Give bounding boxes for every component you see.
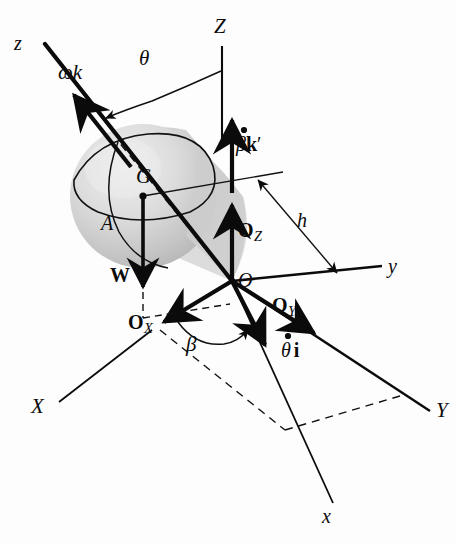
reaction-OX-label: OX [128, 312, 153, 335]
angle-theta-label: θ [139, 48, 149, 69]
height-h-label: h [297, 210, 307, 230]
beta-dot-k-prime-label: βk′ [236, 134, 261, 154]
reaction-OX-subscript: X [144, 320, 153, 336]
figure-canvas: z Z ωk θ βk′ OZ O h y OY θi OX β X Y x G… [0, 0, 456, 544]
reaction-OY-label: OY [272, 295, 296, 318]
origin-dot [229, 278, 235, 284]
k-unit-vector: k [246, 133, 257, 155]
spinning-top-body [70, 124, 247, 281]
axis-z-label: z [14, 33, 22, 53]
prime-mark: ′ [257, 133, 261, 155]
axis-X-label: X [31, 396, 44, 417]
reaction-OX-vector [164, 281, 232, 322]
reaction-OY-subscript: Y [288, 303, 296, 319]
beta-symbol: β [236, 133, 246, 155]
weight-W-label: W [110, 265, 130, 285]
theta-dot-i-label: θi [281, 340, 299, 360]
reaction-OZ-letter: O [238, 219, 254, 241]
reaction-OY-letter: O [272, 294, 288, 316]
axis-x-label: x [322, 506, 331, 526]
point-A-label: A [101, 213, 113, 233]
omega-symbol: ωk [58, 60, 82, 84]
ground-dash-X-to-corner [160, 330, 285, 430]
reaction-OX-letter: O [128, 311, 144, 333]
axis-Y-label: Y [436, 400, 448, 421]
reaction-OZ-label: OZ [238, 220, 262, 243]
axis-y-line [232, 266, 382, 281]
reaction-OZ-subscript: Z [254, 228, 262, 244]
origin-label: O [238, 270, 252, 290]
axis-Z-label: Z [214, 16, 226, 37]
ground-dash-corner-to-Y [285, 396, 400, 430]
theta-symbol: θ [281, 339, 291, 361]
angle-theta-arc [106, 71, 221, 118]
i-unit-vector: i [294, 339, 300, 361]
axis-X-line [59, 330, 152, 402]
angle-beta-label: β [186, 334, 196, 355]
omega-k-label: ωk [58, 62, 82, 83]
point-G-label: G [136, 166, 151, 187]
axis-y-label: y [388, 256, 397, 276]
